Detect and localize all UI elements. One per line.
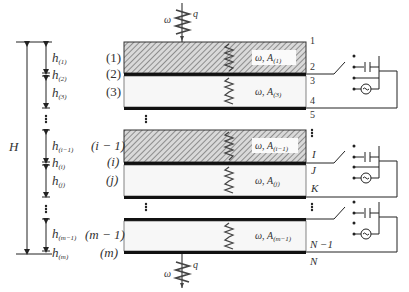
layer-index-labels: (1) (2) (3) (i − 1) (i) (j) (m − 1) (m) <box>85 50 125 260</box>
top-omega-label: ω <box>164 14 171 25</box>
top-q-label: q <box>193 8 198 19</box>
bottom-load-spring-icon <box>176 254 189 288</box>
svg-text:(i): (i) <box>107 154 119 169</box>
piezo-stack-diagram: ω q ω, A(1) ω, A(3) ω, A(i−1) ω, A(j) ω,… <box>0 0 409 292</box>
svg-text:h(1): h(1) <box>52 50 67 66</box>
bottom-omega-label: ω <box>164 268 171 279</box>
svg-text:h(i−1): h(i−1) <box>52 138 74 154</box>
dimension-lines <box>16 42 52 254</box>
svg-text:h(2): h(2) <box>52 67 67 83</box>
layer-2-electrode <box>124 73 306 76</box>
svg-text:(3): (3) <box>106 84 121 99</box>
svg-text:(j): (j) <box>106 172 118 187</box>
top-load-spring-icon <box>176 3 189 42</box>
contact-dots-3 <box>353 201 356 236</box>
svg-text:h(j): h(j) <box>52 173 66 189</box>
svg-text:N −1: N −1 <box>309 238 333 250</box>
switch-circuit-2[interactable] <box>306 146 397 197</box>
svg-text:5: 5 <box>310 109 315 120</box>
layer-j-bottom-electrode <box>124 196 306 199</box>
svg-text:J: J <box>311 164 317 176</box>
svg-text:(m − 1): (m − 1) <box>85 227 125 242</box>
svg-text:4: 4 <box>310 95 315 106</box>
svg-text:(i − 1): (i − 1) <box>91 138 125 153</box>
interface-labels: 1 2 3 4 5 I J K N −1 N <box>309 35 333 267</box>
svg-text:N: N <box>309 255 318 267</box>
svg-text:h(m): h(m) <box>52 245 69 261</box>
svg-text:3: 3 <box>310 75 315 86</box>
svg-text:h(m−1): h(m−1) <box>52 226 77 242</box>
layer-m-1-top-electrode <box>124 218 306 221</box>
switch-circuit-1[interactable] <box>306 56 397 108</box>
svg-text:I: I <box>311 148 317 160</box>
layer-3-bottom-electrode <box>124 107 306 110</box>
layer-m-electrode <box>124 251 306 254</box>
contact-dots-2 <box>353 145 356 180</box>
svg-text:(m): (m) <box>100 245 118 260</box>
svg-text:h(3): h(3) <box>52 85 67 101</box>
thickness-labels: h(1) h(2) h(3) h(i−1) h(i) h(j) h(m−1) h… <box>52 50 77 261</box>
layer-i-electrode <box>124 162 306 165</box>
svg-text:1: 1 <box>310 35 315 46</box>
svg-text:(1): (1) <box>106 50 121 65</box>
svg-text:K: K <box>310 182 319 194</box>
bottom-q-label: q <box>193 259 198 270</box>
svg-text:(2): (2) <box>106 66 121 81</box>
contact-dots-1 <box>353 55 356 91</box>
total-height-label: H <box>8 139 19 154</box>
svg-text:h(i): h(i) <box>52 155 66 171</box>
svg-text:2: 2 <box>310 61 315 72</box>
